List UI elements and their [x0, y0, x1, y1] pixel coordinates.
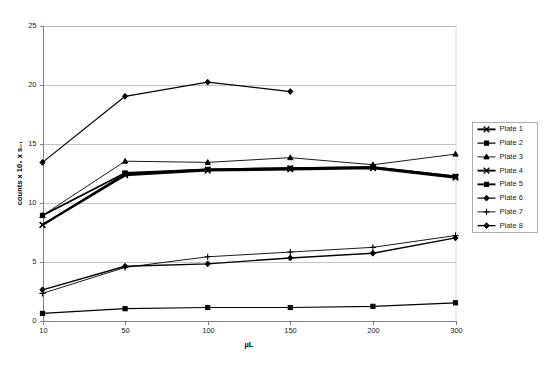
data-point-5-3: [288, 166, 292, 170]
legend-label-3: Plate 3: [500, 152, 523, 161]
y-axis-ticks: 0510152025: [28, 21, 42, 325]
legend-label-1: Plate 1: [500, 124, 523, 133]
data-point-7-2: [205, 254, 211, 260]
x-tick-label-10: 10: [39, 326, 47, 335]
data-point-8-0: [40, 287, 45, 293]
series-line-3: [43, 154, 456, 215]
data-point-5-4: [371, 165, 375, 169]
data-point-2-0: [40, 311, 44, 315]
data-point-3-1: [123, 158, 128, 163]
data-point-7-4: [370, 244, 376, 250]
y-tick-label-0: 0: [32, 316, 36, 325]
series-plate-1: [40, 165, 459, 227]
y-tick-label-20: 20: [28, 80, 36, 89]
legend-label-4: Plate 4: [500, 166, 523, 175]
series-plate-8: [40, 235, 458, 293]
data-point-2-3: [288, 305, 292, 309]
data-point-7-3: [287, 249, 293, 255]
y-tick-label-25: 25: [28, 21, 36, 30]
legend: Plate 1Plate 2Plate 3Plate 4Plate 5Plate…: [473, 123, 538, 233]
x-tick-label-50: 50: [121, 326, 129, 335]
series-line-8: [43, 238, 456, 290]
series-line-7: [43, 236, 456, 294]
chart-figure: 05101520251050100150200300µLcounts x 10₃…: [0, 0, 548, 369]
y-tick-label-10: 10: [28, 198, 36, 207]
legend-label-2: Plate 2: [500, 138, 523, 147]
data-point-3-3: [288, 155, 293, 160]
data-point-2-5: [453, 301, 457, 305]
axes: [43, 26, 456, 322]
series-line-6: [43, 82, 291, 162]
x-tick-label-200: 200: [367, 326, 380, 335]
data-point-legend-5: [484, 182, 488, 186]
series-plate-6: [40, 79, 293, 165]
y-tick-label-5: 5: [32, 257, 36, 266]
data-point-8-3: [288, 255, 293, 261]
gridlines: [43, 26, 457, 322]
y-axis-title-group: counts x 10₃ x s₋₁: [15, 141, 24, 205]
series-line-1: [43, 168, 456, 225]
series-plate-4: [40, 164, 459, 227]
data-point-2-4: [371, 304, 375, 308]
legend-label-6: Plate 6: [500, 193, 523, 202]
series-plate-7: [39, 232, 458, 296]
data-point-legend-2: [484, 141, 488, 145]
legend-label-8: Plate 8: [500, 221, 523, 230]
data-point-2-2: [206, 305, 210, 309]
legend-label-7: Plate 7: [500, 207, 523, 216]
series-plate-2: [40, 301, 457, 316]
data-point-8-2: [205, 261, 210, 267]
series-line-4: [43, 167, 456, 225]
data-point-5-1: [123, 171, 127, 175]
line-chart: 05101520251050100150200300µLcounts x 10₃…: [0, 0, 548, 369]
data-point-5-5: [453, 174, 457, 178]
y-tick-label-15: 15: [28, 139, 36, 148]
y-axis-title: counts x 10₃ x s₋₁: [15, 141, 24, 205]
x-axis-title: µL: [245, 340, 254, 349]
data-point-8-4: [370, 250, 375, 256]
series-line-2: [43, 303, 456, 314]
data-point-3-5: [453, 151, 458, 156]
data-point-3-2: [205, 160, 210, 165]
x-tick-label-300: 300: [450, 326, 463, 335]
data-point-6-2: [205, 79, 210, 85]
series-plate-5: [40, 165, 457, 218]
data-point-5-0: [40, 213, 44, 217]
legend-label-5: Plate 5: [500, 179, 523, 188]
x-axis-ticks: 1050100150200300: [39, 321, 462, 336]
data-point-2-1: [123, 307, 127, 311]
data-point-5-2: [206, 167, 210, 171]
x-tick-label-150: 150: [284, 326, 297, 335]
x-tick-label-100: 100: [202, 326, 215, 335]
data-point-6-3: [288, 89, 293, 95]
